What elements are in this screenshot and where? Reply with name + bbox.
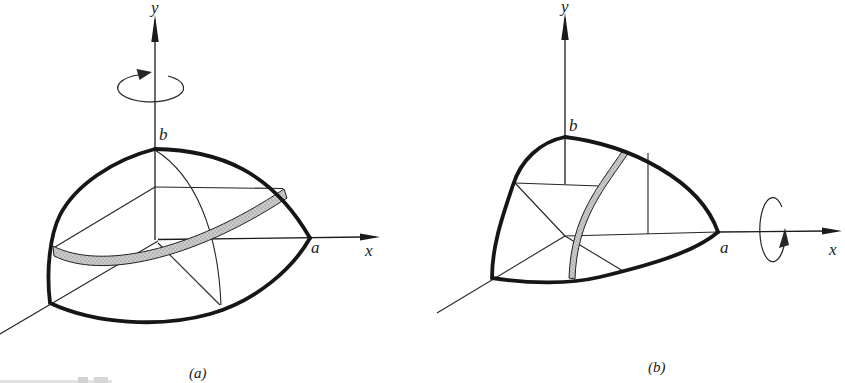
- dome-outline-left-base-a: [48, 149, 310, 322]
- solids-of-revolution-diagram: y b a x (a): [0, 0, 845, 383]
- y-axis-label-a: y: [149, 0, 159, 17]
- b-label-a: b: [159, 125, 168, 144]
- a-label-b: a: [720, 238, 729, 257]
- meridian-curve-a: [155, 150, 221, 305]
- x-axis-arrowhead-a: [360, 233, 380, 240]
- x-axis-label-b: x: [828, 240, 837, 259]
- left-radius-line-b: [515, 183, 565, 236]
- caption-b: (b): [648, 359, 666, 376]
- band-top-right-radius-line-a: [155, 187, 283, 189]
- diagram-canvas: y b a x (a): [0, 0, 845, 383]
- y-axis-arrowhead-a: [151, 15, 158, 42]
- figure-label-cutoff-mark: [94, 377, 108, 383]
- x-axis-inner-segment-b: [565, 232, 718, 236]
- y-axis-arrowhead-b: [561, 13, 568, 40]
- caption-a: (a): [189, 365, 207, 382]
- x-axis-line-b: [718, 231, 826, 232]
- band-top-left-radius-line-a: [55, 187, 155, 247]
- figure-b: y b a x (b): [437, 0, 842, 376]
- rotation-arrow-icon-b: [760, 198, 789, 262]
- shaded-disk-band-b: [569, 150, 629, 279]
- a-label-a: a: [311, 238, 320, 257]
- b-label-b: b: [569, 116, 578, 135]
- z-axis-line-b: [437, 236, 565, 313]
- horizontal-chord-line-b: [515, 183, 600, 186]
- rotation-arrow-icon-a: [118, 69, 184, 102]
- x-axis-arrowhead-b: [822, 227, 842, 234]
- figure-label-cutoff-mark: [78, 377, 88, 383]
- figure-a: y b a x (a): [0, 0, 380, 382]
- x-axis-label-a: x: [364, 241, 373, 260]
- y-axis-label-b: y: [559, 0, 569, 16]
